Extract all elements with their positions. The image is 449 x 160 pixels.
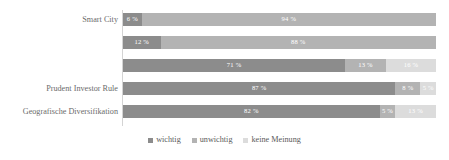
bar-segment-wichtig[interactable]: 6 % <box>123 13 142 26</box>
bar-segment-unwichtig[interactable]: 5 % <box>380 105 396 118</box>
bar-segment-wichtig[interactable]: 12 % <box>123 36 161 49</box>
category-label: Geografische Diversifikation <box>0 105 118 118</box>
bar-segment-unwichtig[interactable]: 88 % <box>161 36 436 49</box>
legend-swatch-icon <box>243 138 248 143</box>
legend-item-keine-meinung[interactable]: keine Meinung <box>243 136 300 144</box>
bar-segment-keine-meinung[interactable]: 16 % <box>386 59 436 72</box>
legend-item-unwichtig[interactable]: unwichtig <box>192 136 233 144</box>
segment-value-label: 12 % <box>135 39 150 46</box>
category-label: Prudent Investor Rule <box>0 82 118 95</box>
bar-segment-unwichtig[interactable]: 94 % <box>142 13 436 26</box>
segment-value-label: 71 % <box>227 62 242 69</box>
chart-legend: wichtig unwichtig keine Meinung <box>0 136 449 144</box>
stacked-bar: 82 % 5 % 13 % <box>123 105 436 118</box>
segment-value-label: 5 % <box>382 108 393 115</box>
legend-label: keine Meinung <box>251 136 300 144</box>
segment-value-label: 87 % <box>252 85 267 92</box>
category-label: Smart City <box>0 13 118 26</box>
segment-value-label: 88 % <box>291 39 306 46</box>
segment-value-label: 6 % <box>127 16 138 23</box>
legend-swatch-icon <box>148 138 153 143</box>
legend-item-wichtig[interactable]: wichtig <box>148 136 181 144</box>
bar-segment-unwichtig[interactable]: 13 % <box>345 59 386 72</box>
bar-segment-unwichtig[interactable]: 8 % <box>395 82 420 95</box>
segment-value-label: 16 % <box>404 62 419 69</box>
bar-segment-keine-meinung[interactable]: 13 % <box>395 105 436 118</box>
bar-segment-wichtig[interactable]: 87 % <box>123 82 395 95</box>
legend-label: wichtig <box>156 136 181 144</box>
segment-value-label: 94 % <box>282 16 297 23</box>
stacked-bar: 71 % 13 % 16 % <box>123 59 436 72</box>
stacked-bar: 87 % 8 % 5 % <box>123 82 436 95</box>
legend-swatch-icon <box>192 138 197 143</box>
segment-value-label: 8 % <box>402 85 413 92</box>
stacked-bar: 6 % 94 % <box>123 13 436 26</box>
stacked-bar-chart: Smart City 6 % 94 % 12 % 88 % 71 % 13 % … <box>0 0 449 160</box>
segment-value-label: 13 % <box>358 62 373 69</box>
stacked-bar: 12 % 88 % <box>123 36 436 49</box>
legend-label: unwichtig <box>200 136 233 144</box>
segment-value-label: 13 % <box>408 108 423 115</box>
bar-segment-wichtig[interactable]: 71 % <box>123 59 345 72</box>
segment-value-label: 5 % <box>423 85 434 92</box>
bar-segment-wichtig[interactable]: 82 % <box>123 105 380 118</box>
bar-segment-keine-meinung[interactable]: 5 % <box>420 82 436 95</box>
segment-value-label: 82 % <box>244 108 259 115</box>
